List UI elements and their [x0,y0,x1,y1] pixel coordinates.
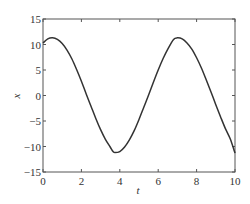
axis-ticks [43,19,235,172]
y-tick-label: 0 [36,90,42,102]
x-tick-label: 2 [79,175,85,187]
x-tick-label: 6 [155,175,161,187]
y-tick-label: 15 [30,13,42,25]
x-tick-label: 4 [117,175,123,187]
x-tick-label: 8 [194,175,200,187]
line-chart: 0246810 151050−5−10−15 t x [0,0,250,204]
y-tick-label: −5 [29,115,41,127]
y-tick-labels: 151050−5−10−15 [24,13,42,178]
y-tick-label: −10 [24,141,42,153]
x-tick-label: 10 [230,175,242,187]
y-tick-label: 5 [36,64,42,76]
y-axis-label: x [10,93,22,99]
axes-box [43,19,235,172]
x-axis-label: t [136,184,140,196]
y-tick-label: 10 [30,39,42,51]
x-tick-label: 0 [40,175,46,187]
data-line-x-of-t [43,38,235,153]
y-tick-label: −15 [24,166,42,178]
x-tick-labels: 0246810 [40,175,241,187]
plot-frame [43,19,235,172]
